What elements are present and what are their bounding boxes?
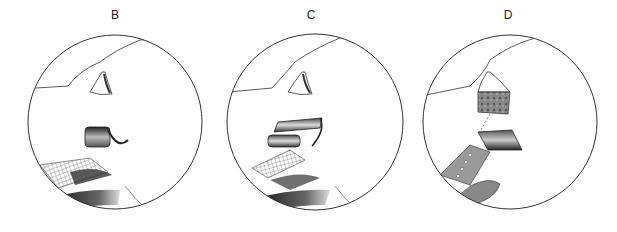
meshed-graft <box>252 150 305 178</box>
panel-c-contents <box>228 36 370 214</box>
panel-d: D <box>410 0 610 232</box>
panel-b-contents <box>20 38 170 212</box>
sutured-flap <box>440 145 490 185</box>
nose-outline <box>20 38 170 89</box>
panel-c-illustration <box>215 0 415 232</box>
folded-flap-lower <box>268 135 300 147</box>
panel-d-circle <box>423 35 597 209</box>
folded-flap-upper <box>274 118 322 132</box>
rolled-flap <box>85 127 110 147</box>
composite-graft <box>478 92 510 114</box>
lip-segment <box>435 180 500 212</box>
panel-d-illustration <box>410 0 610 232</box>
folded-flap <box>478 130 522 150</box>
composite-graft-top <box>478 72 510 92</box>
panel-b: B <box>15 0 215 232</box>
panel-c: C <box>215 0 415 232</box>
panel-b-illustration <box>15 0 215 232</box>
